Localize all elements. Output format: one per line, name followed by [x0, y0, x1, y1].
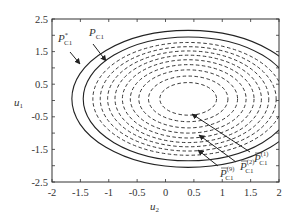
x-tick-label: -1.5: [72, 187, 89, 198]
y-tick-label: -0.5: [31, 111, 48, 122]
contour-dashed-5: [115, 55, 261, 142]
x-tick-label: -1: [104, 187, 113, 198]
contour-plot: -2-1.5-1-0.500.511.52 2.51.50.5-0.5-1.5-…: [0, 0, 297, 222]
plot-frame: [52, 19, 279, 182]
arrow-pstar-c1: [70, 52, 80, 64]
x-tick-label: 1: [220, 187, 225, 198]
contour-dashed-10: [160, 83, 217, 116]
contour-dashed-8: [139, 70, 238, 128]
y-tick-label: 1.5: [35, 46, 48, 57]
y-axis-label: u1: [14, 96, 24, 110]
annotation-pbar1-c1: P(1)C1: [253, 150, 268, 167]
axis-ticks: [52, 19, 279, 182]
x-tick-label: 0.5: [187, 187, 200, 198]
y-tick-label: -2.5: [31, 177, 48, 188]
x-tick-label: -0.5: [129, 187, 146, 198]
contour-dashed-2: [93, 42, 284, 155]
x-tick-label: 2: [276, 187, 281, 198]
x-tick-label: -2: [48, 187, 57, 198]
x-axis-label: u2: [150, 200, 160, 214]
arrow-pbar1-c1: [192, 114, 250, 152]
x-tick-label: 0: [163, 187, 168, 198]
contour-ellipses: [72, 30, 297, 167]
x-tick-labels: -2-1.5-1-0.500.511.52: [48, 187, 282, 198]
contour-dashed-3: [100, 47, 276, 151]
annotation-pbar9-c1: P(9)C1: [219, 165, 234, 182]
annotation-p-c1: PC1: [88, 26, 104, 41]
annotation-pstar-c1: P*C1: [57, 31, 73, 47]
contour-dashed-4: [108, 51, 269, 147]
annotation-pbar2-c1: P(2)C1: [239, 158, 254, 175]
y-tick-label: 0.5: [35, 79, 48, 90]
contour-dashed-6: [122, 60, 254, 138]
y-tick-labels: 2.51.50.5-0.5-1.5-2.5: [31, 14, 48, 188]
contour-dashed-7: [130, 65, 246, 133]
y-tick-label: -1.5: [31, 144, 48, 155]
x-tick-label: 1.5: [244, 187, 257, 198]
contour-dashed-9: [148, 76, 227, 122]
y-tick-label: 2.5: [35, 14, 48, 25]
arrow-pbar9-c1: [198, 150, 218, 166]
